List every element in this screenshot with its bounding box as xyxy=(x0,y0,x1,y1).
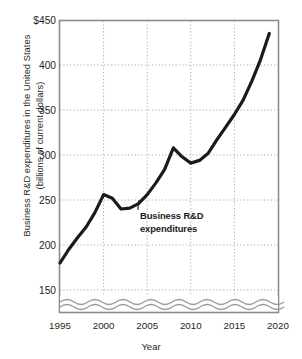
plot-area xyxy=(0,0,302,359)
axis-break xyxy=(60,296,284,311)
series-callout-line1: Business R&D xyxy=(140,210,203,223)
series-callout: Business R&D expenditures xyxy=(140,210,203,235)
series-callout-line2: expenditures xyxy=(140,223,203,236)
x-tick-1995: 1995 xyxy=(49,320,71,331)
x-axis-title: Year xyxy=(0,341,302,352)
x-tick-2000: 2000 xyxy=(93,320,115,331)
plot-frame xyxy=(60,21,279,313)
x-tick-2010: 2010 xyxy=(180,320,202,331)
x-tick-2020: 2020 xyxy=(267,320,289,331)
x-tick-2015: 2015 xyxy=(223,320,245,331)
x-tick-2005: 2005 xyxy=(136,320,158,331)
chart-root: Business R&D expenditures in the United … xyxy=(0,0,302,359)
